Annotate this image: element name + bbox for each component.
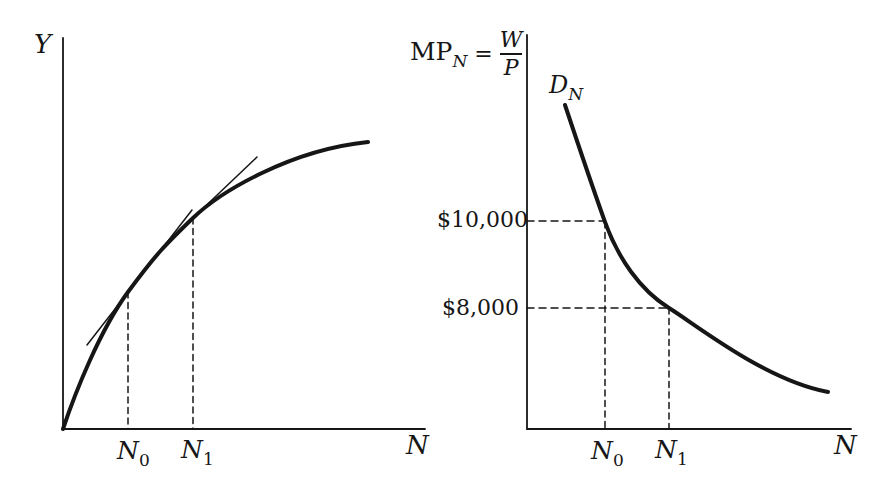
left-tick-n1-sub: 1 — [203, 449, 214, 469]
w-over-p-fraction: W P — [500, 28, 523, 80]
left-tick-n1: N1 — [181, 437, 214, 469]
right-tick-n1-base: N — [655, 435, 677, 464]
left-tick-n1-base: N — [181, 435, 203, 464]
fraction-numerator: W — [500, 28, 523, 52]
right-tick-n0: N0 — [591, 438, 624, 470]
equals-sign: = — [474, 41, 492, 66]
demand-curve-label-base: D — [549, 71, 568, 99]
mp-text: MP — [410, 37, 452, 66]
mp-subscript: N — [452, 51, 467, 71]
demand-curve-label-sub: N — [568, 84, 583, 104]
guide-value-8000: $8,000 — [437, 296, 519, 319]
left-chart-production-function — [63, 38, 425, 429]
left-tick-n0: N0 — [117, 438, 150, 470]
left-tick-n0-base: N — [117, 436, 139, 465]
tangent-line-at-n0 — [87, 210, 192, 345]
demand-curve-label: DN — [549, 73, 583, 104]
right-tick-n1: N1 — [655, 437, 688, 469]
right-y-axis-formula: MPN = W P — [410, 28, 522, 80]
mp-term: MPN — [410, 37, 467, 71]
left-y-axis-label: Y — [34, 31, 51, 58]
left-tick-n0-sub: 0 — [139, 450, 150, 470]
fraction-denominator: P — [504, 56, 519, 80]
right-x-axis-label: N — [834, 432, 857, 459]
right-tick-n0-base: N — [591, 436, 613, 465]
right-tick-n0-sub: 0 — [613, 450, 624, 470]
production-function-curve — [63, 142, 368, 429]
right-tick-n1-sub: 1 — [677, 449, 688, 469]
guide-value-10000: $10,000 — [437, 208, 519, 231]
two-panel-economics-figure: Y N N0 N1 MPN = W P DN $10,000 $8,000 N … — [0, 0, 884, 484]
tangent-line-at-n1 — [173, 157, 257, 237]
left-x-axis-label: N — [406, 432, 429, 459]
